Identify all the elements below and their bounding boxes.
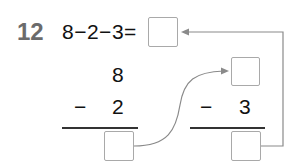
return-arrow-line — [188, 32, 283, 146]
curve-arrow-line — [134, 71, 224, 146]
connector-arrows — [0, 0, 296, 168]
curve-arrow-head-icon — [221, 68, 229, 75]
return-arrow-head-icon — [181, 29, 189, 36]
